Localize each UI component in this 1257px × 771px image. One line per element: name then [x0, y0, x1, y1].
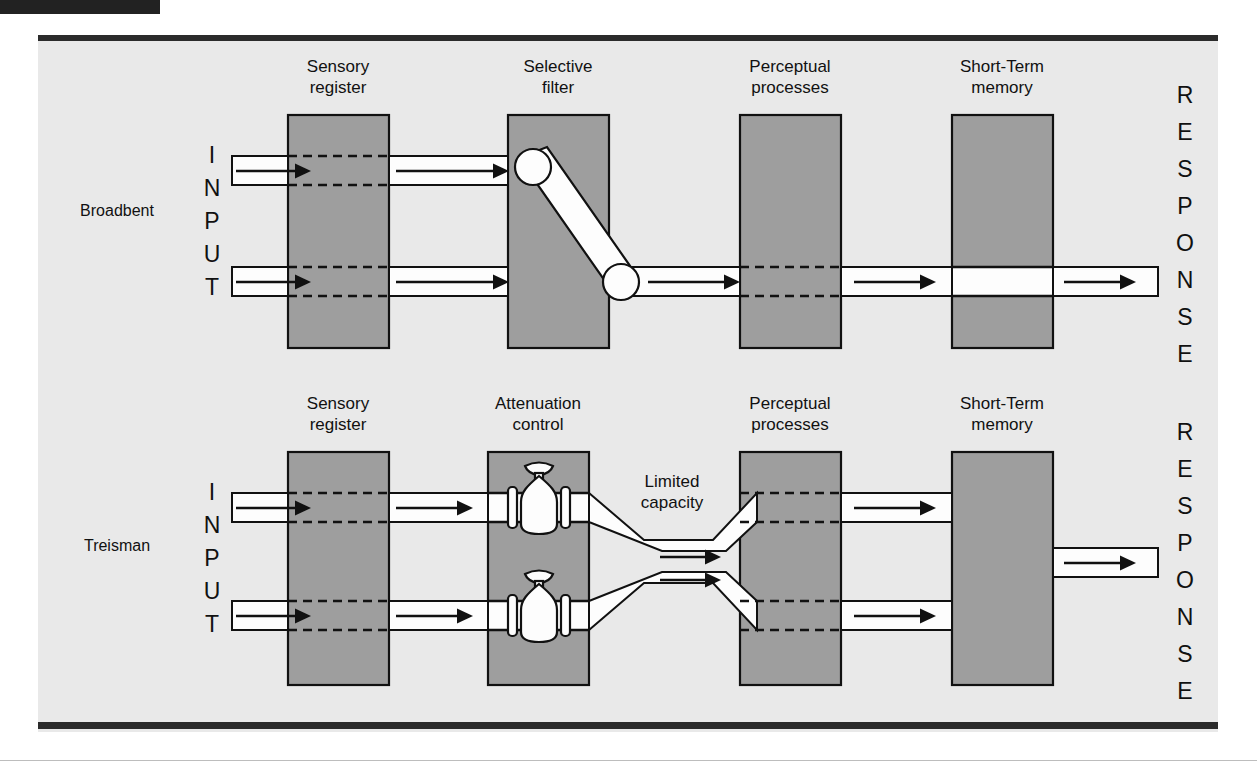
- t-input-letter-p: P: [204, 545, 219, 571]
- channel-inside-stm-broadbent: [953, 268, 1052, 295]
- treisman-output-channel: [1053, 548, 1158, 577]
- broadbent-response-label: R E S P O N S E: [1176, 82, 1194, 367]
- header-perceptual-processes-l1: Perceptual: [749, 57, 830, 76]
- t-response-letter-s2: S: [1177, 641, 1192, 667]
- header-perceptual-processes-l2: processes: [751, 78, 828, 97]
- t-input-letter-t: T: [205, 611, 219, 637]
- limited-capacity-label-l1: Limited: [645, 472, 700, 491]
- box-perceptual-processes-treisman: [740, 452, 841, 685]
- box-sensory-register-broadbent: [288, 115, 389, 348]
- input-letter-p: P: [204, 208, 219, 234]
- t-header-sensory-register-l1: Sensory: [307, 394, 370, 413]
- t-response-letter-o: O: [1176, 567, 1194, 593]
- t-input-letter-i: I: [209, 479, 215, 505]
- broadbent-model: Broadbent I N P U T Sensory register Sel…: [80, 57, 1194, 367]
- treisman-model: Treisman I N P U T Sensory register Atte…: [84, 394, 1194, 704]
- treisman-response-label: R E S P O N S E: [1176, 419, 1194, 704]
- header-sensory-register-l2: register: [310, 78, 367, 97]
- treisman-stage-headers: Sensory register Attenuation control Per…: [307, 394, 1044, 434]
- header-short-term-memory-l2: memory: [971, 78, 1033, 97]
- response-letter-s2: S: [1177, 304, 1192, 330]
- box-short-term-memory-treisman: [952, 452, 1053, 685]
- response-letter-e2: E: [1177, 341, 1192, 367]
- limited-capacity-label-l2: capacity: [641, 493, 704, 512]
- t-response-letter-r: R: [1177, 419, 1194, 445]
- response-letter-o: O: [1176, 230, 1194, 256]
- valve-lower-flange-left: [508, 595, 517, 636]
- response-letter-r: R: [1177, 82, 1194, 108]
- input-letter-u: U: [204, 241, 221, 267]
- broadbent-row-label: Broadbent: [80, 202, 154, 219]
- t-response-letter-n: N: [1177, 604, 1194, 630]
- t-header-perceptual-processes-l1: Perceptual: [749, 394, 830, 413]
- limited-capacity-crossing: Limited capacity: [589, 472, 757, 630]
- header-sensory-register-l1: Sensory: [307, 57, 370, 76]
- broadbent-input-label: I N P U T: [204, 142, 221, 300]
- t-header-attenuation-control-l2: control: [512, 415, 563, 434]
- broadbent-stage-headers: Sensory register Selective filter Percep…: [307, 57, 1044, 97]
- diagram-canvas: Broadbent I N P U T Sensory register Sel…: [0, 0, 1257, 771]
- header-selective-filter-l2: filter: [542, 78, 574, 97]
- response-letter-e1: E: [1177, 119, 1192, 145]
- t-header-short-term-memory-l1: Short-Term: [960, 394, 1044, 413]
- t-response-letter-s1: S: [1177, 493, 1192, 519]
- box-sensory-register-treisman: [288, 452, 389, 685]
- figure-root: Broadbent I N P U T Sensory register Sel…: [0, 0, 1257, 771]
- filter-pivot-upper: [515, 149, 551, 185]
- valve-upper-flange-left: [508, 487, 517, 528]
- t-response-letter-e2: E: [1177, 678, 1192, 704]
- t-input-letter-u: U: [204, 578, 221, 604]
- box-short-term-memory-broadbent: [952, 115, 1053, 348]
- response-letter-p: P: [1177, 193, 1192, 219]
- t-response-letter-p: P: [1177, 530, 1192, 556]
- header-short-term-memory-l1: Short-Term: [960, 57, 1044, 76]
- t-header-short-term-memory-l2: memory: [971, 415, 1033, 434]
- filter-pivot-lower: [603, 264, 639, 300]
- valve-upper-flange-right: [561, 487, 570, 528]
- input-letter-n: N: [204, 175, 221, 201]
- input-letter-t: T: [205, 274, 219, 300]
- treisman-input-label: I N P U T: [204, 479, 221, 637]
- response-letter-n: N: [1177, 267, 1194, 293]
- treisman-row-label: Treisman: [84, 537, 150, 554]
- response-letter-s1: S: [1177, 156, 1192, 182]
- t-header-sensory-register-l2: register: [310, 415, 367, 434]
- box-perceptual-processes-broadbent: [740, 115, 841, 348]
- input-letter-i: I: [209, 142, 215, 168]
- t-header-attenuation-control-l1: Attenuation: [495, 394, 581, 413]
- valve-lower-flange-right: [561, 595, 570, 636]
- header-selective-filter-l1: Selective: [524, 57, 593, 76]
- broadbent-selected-channel: [609, 267, 1158, 296]
- t-input-letter-n: N: [204, 512, 221, 538]
- t-header-perceptual-processes-l2: processes: [751, 415, 828, 434]
- t-response-letter-e1: E: [1177, 456, 1192, 482]
